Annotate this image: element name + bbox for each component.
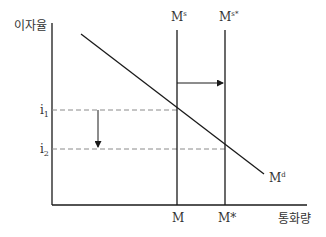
supply-label: Ms [171,10,187,24]
y-axis-label: 이자율 [14,19,47,33]
money-market-diagram: 이자율 통화량 Ms Ms* Md i1 i2 M M* [0,0,326,237]
m-star-tick-label: M* [218,211,236,225]
i1-label: i1 [40,103,49,119]
m-tick-label: M [172,211,184,225]
demand-label: Md [269,171,286,185]
x-axis-label: 통화량 [278,212,311,226]
money-demand-line [81,34,264,174]
i2-label: i2 [40,142,49,158]
supply-new-label: Ms* [219,10,239,24]
